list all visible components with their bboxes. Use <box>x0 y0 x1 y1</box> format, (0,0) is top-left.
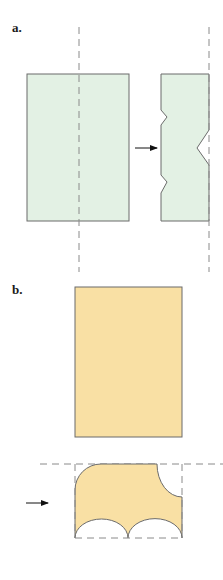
panel-b-original-rect <box>75 287 182 437</box>
diagram-canvas <box>0 0 223 580</box>
panel-a-notched-strip <box>161 74 209 221</box>
panel-b-cut-shape <box>75 464 182 538</box>
panel-a-original-rect <box>27 74 129 221</box>
